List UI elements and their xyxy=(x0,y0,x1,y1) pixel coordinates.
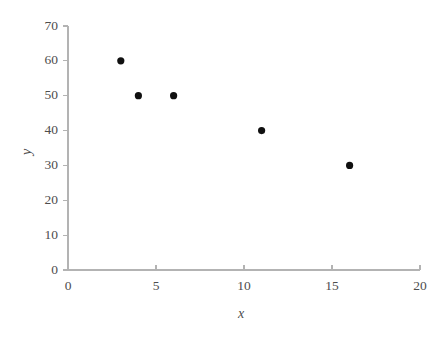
data-points xyxy=(117,57,353,169)
x-tick-label: 5 xyxy=(153,278,160,293)
x-tick-label: 15 xyxy=(325,278,339,293)
data-point-marker xyxy=(135,92,142,99)
x-tick-label: 10 xyxy=(237,278,251,293)
y-tick-label: 20 xyxy=(45,192,59,207)
y-tick-label: 0 xyxy=(51,262,58,277)
chart-canvas: 010203040506070 05101520 x y xyxy=(0,0,440,337)
scatter-chart: 010203040506070 05101520 x y xyxy=(0,0,440,337)
y-tick-label: 40 xyxy=(45,122,59,137)
y-tick-label: 50 xyxy=(45,87,59,102)
data-point-marker xyxy=(117,57,124,64)
data-point-marker xyxy=(170,92,177,99)
y-axis-ticks: 010203040506070 xyxy=(45,18,69,277)
data-point-marker xyxy=(346,162,353,169)
data-point-marker xyxy=(258,127,265,134)
x-tick-label: 0 xyxy=(65,278,72,293)
x-tick-label: 20 xyxy=(413,278,427,293)
y-tick-label: 70 xyxy=(45,18,59,33)
x-axis-ticks: 05101520 xyxy=(65,265,427,293)
y-tick-label: 30 xyxy=(45,157,59,172)
y-axis-title: y xyxy=(19,148,34,157)
y-tick-label: 60 xyxy=(45,52,59,67)
x-axis-title: x xyxy=(237,306,245,321)
y-tick-label: 10 xyxy=(45,227,59,242)
